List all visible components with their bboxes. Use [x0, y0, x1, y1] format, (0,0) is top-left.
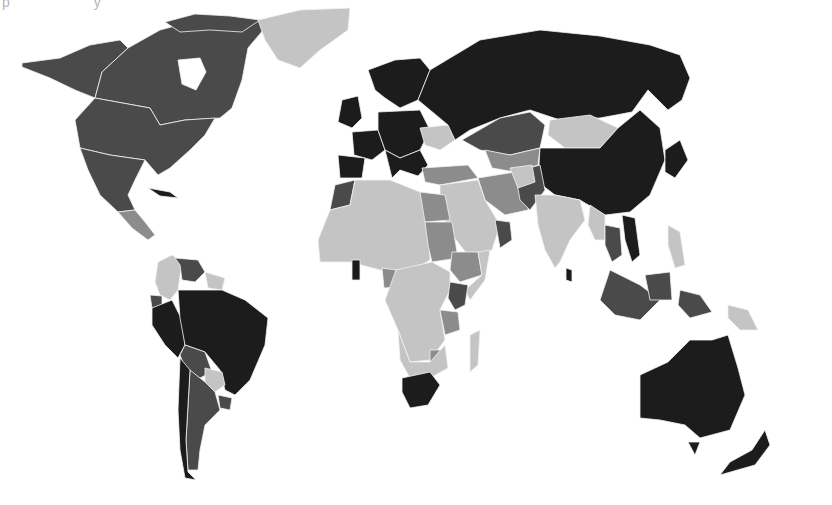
region-papua-new-guinea[interactable]: [728, 305, 758, 330]
region-sulawesi-islands[interactable]: [678, 290, 712, 318]
region-japan-korea[interactable]: [665, 140, 688, 178]
region-thailand[interactable]: [605, 225, 622, 262]
region-vietnam[interactable]: [622, 215, 640, 262]
region-philippines[interactable]: [668, 225, 685, 268]
region-madagascar[interactable]: [470, 330, 480, 372]
region-australia[interactable]: [640, 335, 745, 438]
region-borneo[interactable]: [645, 272, 672, 300]
region-iberia[interactable]: [338, 155, 365, 178]
region-sri-lanka[interactable]: [566, 268, 572, 282]
region-central-america[interactable]: [118, 210, 155, 240]
region-cuba[interactable]: [148, 188, 178, 198]
region-ghana[interactable]: [352, 260, 360, 280]
europe: [338, 58, 430, 178]
region-greenland[interactable]: [258, 8, 350, 68]
region-kenya[interactable]: [448, 282, 468, 310]
region-egypt[interactable]: [420, 192, 450, 222]
north-america: [22, 14, 270, 212]
region-south-africa[interactable]: [402, 372, 440, 408]
region-canadian-arctic[interactable]: [165, 14, 260, 32]
region-ethiopia[interactable]: [450, 252, 482, 282]
region-uk-ireland[interactable]: [338, 96, 362, 128]
region-oman-uae[interactable]: [495, 220, 512, 248]
world-choropleth-map: [0, 0, 832, 505]
region-tasmania[interactable]: [688, 442, 700, 455]
region-new-zealand[interactable]: [720, 430, 770, 475]
region-uruguay[interactable]: [218, 395, 232, 410]
region-guianas[interactable]: [205, 272, 225, 290]
region-india[interactable]: [535, 195, 585, 268]
